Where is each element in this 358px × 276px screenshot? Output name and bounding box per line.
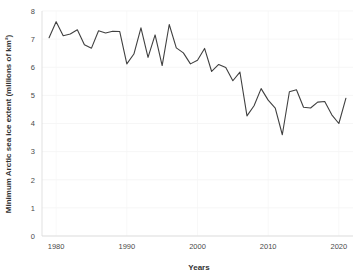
x-axis-title: Years [188,263,210,272]
y-axis-tick-label: 5 [31,91,35,100]
x-axis-tick-label: 2000 [189,242,206,251]
y-axis-tick-label: 1 [31,204,35,213]
y-axis-tick-label: 6 [31,63,35,72]
x-axis-tick-label: 1980 [48,242,65,251]
y-axis-tick-label: 3 [31,147,35,156]
chart-plot-area: 012345678 19801990200020102020 Years Min… [0,0,358,276]
y-axis-tick-label: 8 [31,7,35,16]
y-axis-tick-label: 0 [31,232,35,241]
x-axis-tick-label: 1990 [118,242,135,251]
y-axis-tick-label: 4 [31,119,35,128]
y-axis-tick-labels: 012345678 [31,7,35,241]
x-axis-tick-label: 2010 [260,242,277,251]
y-axis-tick-label: 7 [31,35,35,44]
x-axis-tick-labels: 19801990200020102020 [48,242,347,251]
arctic-sea-ice-line-chart: 012345678 19801990200020102020 Years Min… [0,0,358,276]
x-axis-tick-label: 2020 [331,242,348,251]
y-axis-title: Minimum Arctic sea ice extent (millions … [4,34,13,213]
y-axis-tick-label: 2 [31,176,35,185]
